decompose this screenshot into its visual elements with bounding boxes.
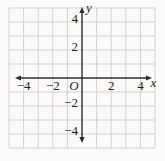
x-tick-label: 2 [108,78,115,93]
x-axis-label: x [150,75,157,90]
coordinate-plane-figure: −4 −2 2 4 4 2 −2 −4 O x y [0,0,165,161]
x-tick-label: −4 [17,78,31,93]
y-tick-label: 2 [72,39,79,54]
origin-label: O [69,78,79,93]
x-tick-label: −2 [46,78,60,93]
y-axis-label: y [84,0,92,15]
y-tick-label: 4 [72,11,79,26]
y-tick-label: −4 [64,123,78,138]
coordinate-plane-svg: −4 −2 2 4 4 2 −2 −4 O x y [0,0,165,161]
x-tick-label: 4 [137,78,144,93]
y-axis-bottom-arrow-icon [79,137,84,143]
y-tick-label: −2 [64,95,78,110]
